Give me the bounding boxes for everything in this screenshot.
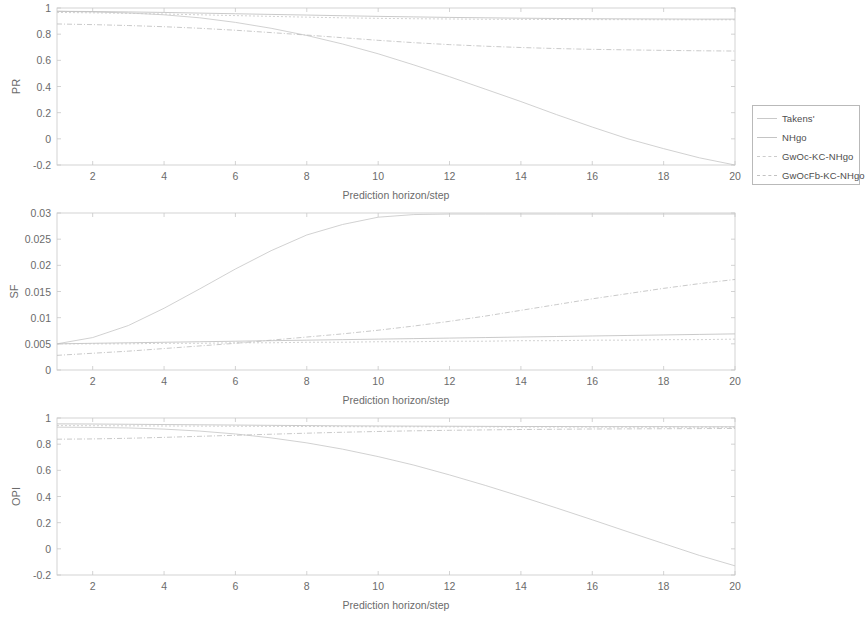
y-axis-title: SF	[8, 284, 20, 298]
series-line-gwocfb-kc-nhgo	[57, 24, 735, 51]
x-tick-label: 4	[161, 375, 167, 387]
y-tick-label: -0.2	[33, 159, 51, 171]
y-tick-label: 0.2	[36, 517, 51, 529]
x-axis-title: Prediction horizon/step	[343, 394, 450, 406]
x-tick-label: 2	[90, 170, 96, 182]
y-tick-label: 0.015	[25, 286, 51, 298]
series-line-gwocfb-kc-nhgo	[57, 428, 735, 439]
y-axis-title: PR	[10, 79, 22, 94]
series-line-takens	[57, 214, 735, 344]
y-tick-label: 0.8	[36, 28, 51, 40]
y-tick-label: 0.6	[36, 54, 51, 66]
legend-line-sample-takens	[757, 118, 777, 119]
x-axis-title: Prediction horizon/step	[343, 599, 450, 611]
x-tick-label: 20	[729, 580, 741, 592]
plot-panel-opi: 2468101214161820-0.200.20.40.60.81Predic…	[0, 410, 867, 615]
y-tick-label: 0.4	[36, 81, 51, 93]
x-tick-label: 8	[304, 375, 310, 387]
x-tick-label: 20	[729, 375, 741, 387]
x-tick-label: 16	[586, 375, 598, 387]
y-tick-label: 0.02	[31, 259, 52, 271]
x-tick-label: 2	[90, 580, 96, 592]
plot-area-opi: 2468101214161820-0.200.20.40.60.81Predic…	[0, 410, 867, 615]
series-line-takens	[57, 11, 735, 165]
x-tick-label: 8	[304, 580, 310, 592]
x-tick-label: 8	[304, 170, 310, 182]
x-tick-label: 6	[232, 170, 238, 182]
y-tick-label: 0.025	[25, 233, 51, 245]
y-tick-label: 0.03	[31, 207, 52, 219]
x-tick-label: 6	[232, 375, 238, 387]
y-tick-label: 0.2	[36, 107, 51, 119]
legend-label-takens: Takens'	[782, 113, 815, 124]
x-tick-label: 14	[515, 375, 527, 387]
x-tick-label: 12	[444, 375, 456, 387]
plot-panel-pr: 2468101214161820-0.200.20.40.60.81Predic…	[0, 0, 867, 205]
x-tick-label: 4	[161, 170, 167, 182]
x-tick-label: 2	[90, 375, 96, 387]
x-tick-label: 14	[515, 170, 527, 182]
y-axis-title: OPI	[10, 487, 22, 506]
x-tick-label: 10	[372, 375, 384, 387]
x-tick-label: 14	[515, 580, 527, 592]
y-tick-label: 1	[45, 2, 51, 14]
axes-frame	[57, 418, 735, 575]
y-tick-label: 0	[45, 364, 51, 376]
series-line-gwocfb-kc-nhgo	[57, 279, 735, 355]
series-line-gwoc-kc-nhgo	[57, 339, 735, 344]
x-tick-label: 18	[658, 580, 670, 592]
x-tick-label: 4	[161, 580, 167, 592]
legend: Takens' NHgo GwOc-KC-NHgo GwOcFb-KC-NHgo	[752, 105, 860, 185]
x-tick-label: 10	[372, 170, 384, 182]
x-tick-label: 10	[372, 580, 384, 592]
y-tick-label: 0.8	[36, 438, 51, 450]
legend-item-nhgo: NHgo	[753, 127, 861, 147]
y-tick-label: 0.6	[36, 464, 51, 476]
x-tick-label: 16	[586, 170, 598, 182]
series-line-nhgo	[57, 334, 735, 344]
legend-line-sample-nhgo	[757, 137, 777, 138]
x-tick-label: 20	[729, 170, 741, 182]
legend-item-gwocfb-kc-nhgo: GwOcFb-KC-NHgo	[753, 165, 861, 185]
plot-area-sf: 246810121416182000.0050.010.0150.020.025…	[0, 205, 867, 410]
legend-item-takens: Takens'	[753, 108, 861, 128]
legend-line-sample-gwocfb-kc-nhgo	[757, 175, 777, 176]
series-line-nhgo	[57, 11, 735, 19]
y-tick-label: 0.005	[25, 338, 51, 350]
x-tick-label: 12	[444, 580, 456, 592]
legend-item-gwoc-kc-nhgo: GwOc-KC-NHgo	[753, 146, 861, 166]
figure-container: 2468101214161820-0.200.20.40.60.81Predic…	[0, 0, 867, 625]
axes-frame	[57, 8, 735, 165]
series-line-takens	[57, 427, 735, 566]
x-tick-label: 6	[232, 580, 238, 592]
y-tick-label: -0.2	[33, 569, 51, 581]
x-axis-title: Prediction horizon/step	[343, 189, 450, 201]
y-tick-label: 0	[45, 133, 51, 145]
plot-area-pr: 2468101214161820-0.200.20.40.60.81Predic…	[0, 0, 867, 205]
x-tick-label: 16	[586, 580, 598, 592]
x-tick-label: 18	[658, 170, 670, 182]
legend-line-sample-gwoc-kc-nhgo	[757, 156, 777, 157]
plot-panel-sf: 246810121416182000.0050.010.0150.020.025…	[0, 205, 867, 410]
x-tick-label: 12	[444, 170, 456, 182]
y-tick-label: 1	[45, 412, 51, 424]
legend-label-gwocfb-kc-nhgo: GwOcFb-KC-NHgo	[782, 170, 865, 181]
y-tick-label: 0.01	[31, 312, 52, 324]
legend-label-gwoc-kc-nhgo: GwOc-KC-NHgo	[782, 151, 853, 162]
legend-label-nhgo: NHgo	[782, 132, 807, 143]
axes-frame	[57, 213, 735, 370]
y-tick-label: 0.4	[36, 491, 51, 503]
y-tick-label: 0	[45, 543, 51, 555]
x-tick-label: 18	[658, 375, 670, 387]
